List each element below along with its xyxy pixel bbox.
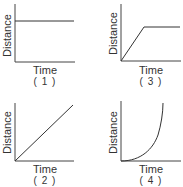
graph-panel-4: Distance Time ( 4 ) (91, 93, 182, 186)
y-axis-label: Distance (107, 7, 119, 55)
distance-line (121, 27, 180, 61)
panel-number: ( 4 ) (136, 175, 166, 186)
graph-panel-2: Distance Time ( 2 ) (0, 93, 91, 186)
panel-number: ( 3 ) (136, 76, 166, 87)
panel-number: ( 1 ) (30, 76, 60, 87)
graph-panel-1: Distance Time ( 1 ) (0, 0, 91, 93)
y-axis-label: Distance (1, 9, 13, 57)
x-axis-label: Time (30, 64, 60, 76)
y-axis-label: Distance (1, 106, 13, 154)
distance-line (15, 105, 73, 161)
y-axis-label: Distance (107, 106, 119, 154)
distance-curve (121, 103, 163, 161)
x-axis-label: Time (30, 163, 60, 175)
x-axis-label: Time (136, 163, 166, 175)
x-axis-label: Time (136, 64, 166, 76)
panel-number: ( 2 ) (30, 175, 60, 186)
graph-panel-3: Distance Time ( 3 ) (91, 0, 182, 93)
